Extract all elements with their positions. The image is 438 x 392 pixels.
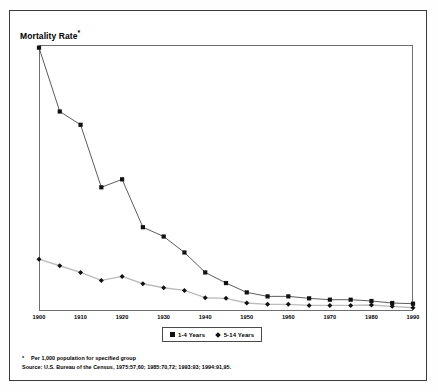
x-axis-tick-label: 1930 xyxy=(157,314,170,320)
x-axis-tick-label: 1910 xyxy=(74,314,87,320)
plot-area-frame xyxy=(39,45,413,311)
x-axis-tick-label: 1920 xyxy=(116,314,129,320)
legend-item-1: 1-4 Years xyxy=(170,332,205,338)
x-axis-tick-label: 1960 xyxy=(282,314,295,320)
footnotes: *Per 1,000 population for specified grou… xyxy=(22,354,231,371)
legend-diamond-marker-icon xyxy=(215,332,221,338)
footnote-star: * xyxy=(22,354,31,363)
x-axis-tick-label: 1950 xyxy=(240,314,253,320)
footnote-note-row: *Per 1,000 population for specified grou… xyxy=(22,354,231,363)
footnote-note: Per 1,000 population for specified group xyxy=(31,355,136,361)
x-axis-tick-label: 1970 xyxy=(323,314,336,320)
footnote-source: Source: U.S. Bureau of the Census, 1975:… xyxy=(22,363,231,372)
x-axis-tick-label: 1980 xyxy=(365,314,378,320)
legend-square-marker-icon xyxy=(170,332,175,337)
x-axis-tick-label: 1990 xyxy=(407,314,420,320)
legend-label: 5-14 Years xyxy=(224,332,255,338)
chart-legend: 1-4 Years5-14 Years xyxy=(162,327,262,342)
chart-page: Mortality Rate* 201918171615141312111098… xyxy=(0,0,438,392)
legend-label: 1-4 Years xyxy=(178,332,205,338)
x-axis-tick-label: 1900 xyxy=(33,314,46,320)
legend-item-2: 5-14 Years xyxy=(216,332,254,338)
x-axis-tick-label: 1940 xyxy=(199,314,212,320)
title-asterisk: * xyxy=(78,29,81,36)
y-axis: 20191817161514131211109876543210 xyxy=(0,0,39,392)
